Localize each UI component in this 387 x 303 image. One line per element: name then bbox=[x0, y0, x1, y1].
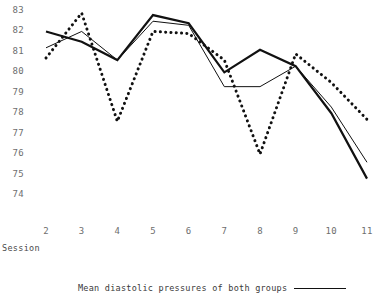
chart-container: 83828180797877767574 234567891011 Sessio… bbox=[0, 0, 387, 303]
x-axis-title: Session bbox=[2, 243, 40, 253]
series-line-2 bbox=[46, 13, 367, 154]
plot-area bbox=[0, 0, 387, 303]
legend-line-swatch bbox=[294, 288, 346, 289]
legend-item-label: Mean diastolic pressures of both groups bbox=[78, 283, 287, 293]
legend: Mean diastolic pressures of both groups bbox=[78, 283, 346, 293]
series-line-1 bbox=[46, 21, 367, 162]
series-line-0 bbox=[46, 15, 367, 179]
